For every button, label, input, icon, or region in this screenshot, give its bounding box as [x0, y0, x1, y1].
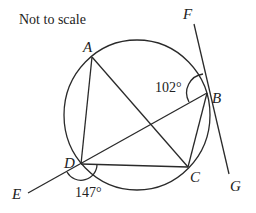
- cyclic-quadrilateral-diagram: A B C D E F G 102° 147°: [0, 0, 256, 213]
- line-ad: [81, 57, 92, 164]
- label-c: C: [190, 169, 201, 185]
- label-a: A: [82, 39, 93, 55]
- label-f: F: [182, 6, 193, 22]
- line-bc: [188, 93, 207, 167]
- label-d: D: [63, 155, 75, 171]
- label-b: B: [212, 90, 221, 106]
- angle-label-147: 147°: [75, 185, 102, 200]
- label-e: E: [11, 186, 21, 202]
- angle-label-102: 102°: [155, 80, 182, 95]
- label-g: G: [230, 178, 241, 194]
- line-ed-b: [28, 93, 207, 193]
